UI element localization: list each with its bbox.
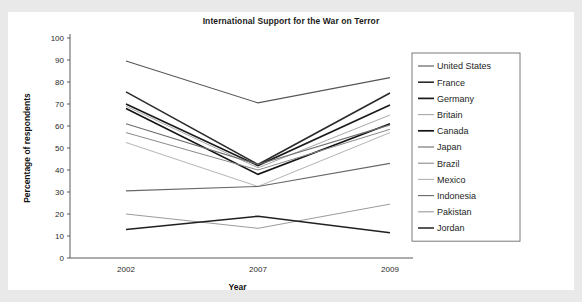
x-axis: 200220072009 <box>70 258 413 274</box>
y-tick-label: 30 <box>55 188 64 197</box>
y-tick-label: 70 <box>55 100 64 109</box>
y-tick-label: 50 <box>55 144 64 153</box>
legend-label-britain: Britain <box>437 110 463 120</box>
legend-label-germany: Germany <box>437 94 475 104</box>
series-line-united-states <box>126 61 390 103</box>
chart-legend: United StatesFranceGermanyBritainCanadaJ… <box>412 53 520 241</box>
legend-label-jordan: Jordan <box>437 223 465 233</box>
series-line-mexico <box>126 133 390 187</box>
legend-label-pakistan: Pakistan <box>437 207 472 217</box>
line-chart: 0102030405060708090100 200220072009 Unit… <box>8 12 574 290</box>
y-tick-label: 80 <box>55 78 64 87</box>
legend-label-france: France <box>437 78 465 88</box>
y-tick-label: 10 <box>55 232 64 241</box>
y-axis-title: Percentage of respondents <box>22 93 32 203</box>
screenshot-root: International Support for the War on Ter… <box>0 0 582 302</box>
legend-label-japan: Japan <box>437 142 462 152</box>
y-tick-label: 0 <box>60 254 65 263</box>
x-tick-label: 2007 <box>249 265 267 274</box>
legend-label-united-states: United States <box>437 61 492 71</box>
y-tick-label: 100 <box>51 34 65 43</box>
x-axis-title: Year <box>229 282 248 290</box>
legend-label-indonesia: Indonesia <box>437 191 476 201</box>
series-lines <box>126 61 390 233</box>
y-tick-label: 40 <box>55 166 64 175</box>
x-tick-label: 2009 <box>381 265 399 274</box>
legend-label-mexico: Mexico <box>437 175 466 185</box>
y-tick-label: 60 <box>55 122 64 131</box>
legend-label-canada: Canada <box>437 126 469 136</box>
x-tick-label: 2002 <box>117 265 135 274</box>
y-tick-label: 90 <box>55 56 64 65</box>
y-tick-label: 20 <box>55 210 64 219</box>
y-axis: 0102030405060708090100 <box>51 34 70 263</box>
chart-canvas: International Support for the War on Ter… <box>8 12 574 290</box>
legend-label-brazil: Brazil <box>437 159 460 169</box>
